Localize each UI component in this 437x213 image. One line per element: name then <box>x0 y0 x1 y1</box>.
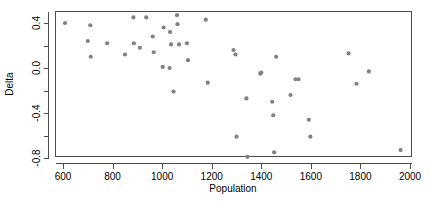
scatter-point <box>89 55 93 59</box>
scatter-point <box>234 135 238 139</box>
scatter-point <box>296 77 300 81</box>
x-tick-label: 800 <box>104 171 121 182</box>
scatter-point <box>231 48 235 52</box>
scatter-point <box>354 82 358 86</box>
scatter-point <box>274 55 278 59</box>
scatter-point <box>346 51 350 55</box>
scatter-point <box>233 52 237 56</box>
scatter-point <box>270 100 274 104</box>
y-axis: 0.40.0-0.4-0.8 <box>31 12 49 167</box>
x-tick-label: 1400 <box>250 171 273 182</box>
x-tick-label: 600 <box>55 171 72 182</box>
scatter-point <box>272 150 276 154</box>
plot-canvas: 0.40.0-0.4-0.8 6008001000120014001600180… <box>0 0 437 213</box>
y-tick-marks <box>44 24 49 159</box>
scatter-plot-figure: 0.40.0-0.4-0.8 6008001000120014001600180… <box>0 0 437 213</box>
x-axis-title: Population <box>209 183 256 194</box>
x-tick-label: 1600 <box>300 171 323 182</box>
scatter-point <box>131 15 135 19</box>
scatter-point <box>259 70 263 74</box>
scatter-point <box>132 41 136 45</box>
x-tick-label: 1800 <box>349 171 372 182</box>
scatter-point <box>152 50 156 54</box>
scatter-point <box>204 18 208 22</box>
scatter-point <box>271 113 275 117</box>
y-tick-label: 0.4 <box>31 16 42 30</box>
x-axis: 600800100012001400160018002000 <box>55 164 422 183</box>
scatter-point <box>161 65 165 69</box>
y-tick-label: -0.4 <box>31 104 42 122</box>
scatter-point <box>168 30 172 34</box>
scatter-point <box>162 25 166 29</box>
y-tick-label: -0.8 <box>31 149 42 167</box>
x-tick-labels: 600800100012001400160018002000 <box>55 171 422 182</box>
scatter-point <box>288 93 292 97</box>
scatter-point <box>398 148 402 152</box>
scatter-point <box>175 13 179 17</box>
y-tick-label: 0.0 <box>31 61 42 75</box>
scatter-point <box>144 15 148 19</box>
scatter-points <box>63 13 403 159</box>
x-tick-label: 1200 <box>201 171 224 182</box>
scatter-point <box>169 42 173 46</box>
y-tick-labels: 0.40.0-0.4-0.8 <box>31 16 42 167</box>
x-tick-label: 1000 <box>151 171 174 182</box>
scatter-point <box>171 90 175 94</box>
scatter-point <box>105 41 109 45</box>
scatter-point <box>63 21 67 25</box>
scatter-point <box>175 22 179 26</box>
scatter-point <box>167 66 171 70</box>
scatter-point <box>151 34 155 38</box>
scatter-point <box>88 23 92 27</box>
scatter-point <box>206 81 210 85</box>
scatter-point <box>86 39 90 43</box>
x-tick-marks <box>64 164 411 169</box>
scatter-point <box>245 155 249 159</box>
scatter-point <box>138 46 142 50</box>
x-tick-label: 2000 <box>399 171 422 182</box>
y-axis-title: Delta <box>4 72 15 96</box>
scatter-point <box>186 58 190 62</box>
scatter-point <box>308 135 312 139</box>
scatter-point <box>177 42 181 46</box>
scatter-point <box>123 52 127 56</box>
scatter-point <box>244 96 248 100</box>
scatter-point <box>185 41 189 45</box>
scatter-point <box>367 69 371 73</box>
scatter-point <box>307 118 311 122</box>
